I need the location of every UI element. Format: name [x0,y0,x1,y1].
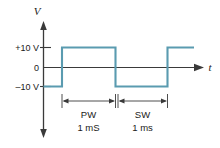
pw-arrow-right-icon [109,99,115,104]
pw-arrow-left-icon [63,99,69,104]
v-axis-label: V [34,5,42,17]
sw-arrow-right-icon [161,99,167,104]
t-axis-arrow-icon [194,64,204,71]
v-axis-arrow-up-icon [40,21,47,30]
pw-dimension-group: PW 1 mS [62,94,116,133]
pw-value-label: 1 mS [77,122,99,133]
sw-arrow-left-icon [119,99,125,104]
v-axis-arrow-down-icon [40,129,47,138]
pw-label: PW [81,109,96,120]
y-tick-label-minus10: –10 V [15,82,39,92]
waveform-svg: V t +10 V 0 –10 V PW 1 mS [0,0,220,148]
t-axis-group: t [44,61,213,73]
t-axis-label: t [208,61,212,73]
y-tick-label-plus10: +10 V [15,43,39,53]
sw-value-label: 1 ms [132,122,153,133]
sw-label: SW [135,109,150,120]
sw-dimension-group: SW 1 ms [118,94,168,133]
waveform-figure: V t +10 V 0 –10 V PW 1 mS [0,0,220,148]
y-tick-label-zero: 0 [34,63,39,73]
